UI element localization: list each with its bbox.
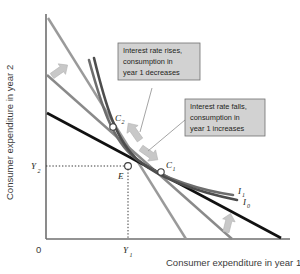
svg-text:2: 2 [122,119,125,125]
point-marker-e [125,163,132,170]
figure-container: Interest rate rises, consumption in year… [0,0,300,274]
svg-text:1: 1 [130,252,133,258]
svg-text:0: 0 [247,203,250,209]
point-marker-c2 [110,124,116,130]
svg-text:1: 1 [173,166,176,172]
tick-label-y1: Y 1 [123,245,133,258]
point-marker-c1 [158,169,164,175]
callout-rate-rises-line-1: Interest rate rises, [123,46,182,55]
y-axis-label: Consumer expenditure in year 2 [4,65,15,200]
callout-rate-rises: Interest rate rises, consumption in year… [118,43,200,80]
guide-lines [46,166,128,239]
origin-label: 0 [36,244,41,255]
callout-rate-falls-line-2: consumption in [190,113,240,122]
label-point-c1: C 1 [166,160,176,172]
arrows-group [48,60,236,234]
x-axis-label: Consumer expenditure in year 1 [166,257,300,268]
callout-leaders [140,88,185,151]
svg-text:Y: Y [31,161,37,171]
diagram-canvas: Interest rate rises, consumption in year… [0,0,300,274]
leader-rate-rises [140,88,152,132]
svg-text:2: 2 [38,168,41,174]
label-curve-i0: I 0 [242,197,250,209]
label-point-c2: C 2 [115,113,125,125]
leader-rate-falls [148,120,185,151]
tick-label-y2: Y 2 [31,161,41,174]
callout-rate-falls-line-3: year 1 increases [190,124,245,133]
callout-rate-falls-line-1: Interest rate falls, [190,102,247,111]
callout-rate-rises-line-2: consumption in [123,57,173,66]
callout-rate-rises-line-3: year 1 decreases [123,68,180,77]
label-point-e: E [117,171,124,181]
svg-text:Y: Y [123,245,129,255]
callout-rate-falls: Interest rate falls, consumption in year… [185,99,265,136]
